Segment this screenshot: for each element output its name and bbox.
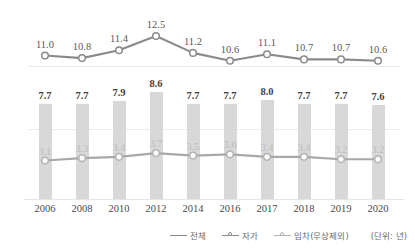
line-marker-icon [222, 231, 239, 240]
data-point-marker [79, 55, 86, 62]
total-value-label: 12.5 [136, 19, 176, 30]
total-value-label: 11.1 [247, 37, 287, 48]
legend-item-total[interactable]: 전체 [170, 229, 206, 241]
bar-value-label: 7.6 [358, 91, 398, 102]
x-tick-label: 2006 [25, 203, 65, 214]
bar-value-label: 7.7 [62, 90, 102, 101]
rent-value-label: 3.2 [358, 144, 398, 155]
data-point-marker [42, 52, 49, 59]
bar-value-label: 7.7 [321, 90, 361, 101]
bar-value-label: 8.6 [136, 78, 176, 89]
bar-value-label: 8.0 [247, 86, 287, 97]
rent-value-label: 3.4 [99, 142, 139, 153]
data-point-marker [227, 57, 234, 64]
data-point-marker [301, 56, 308, 63]
total-value-label: 10.8 [62, 41, 102, 52]
rent-value-label: 3.1 [25, 146, 65, 157]
data-point-marker [153, 33, 160, 40]
rent-value-label: 3.7 [136, 138, 176, 149]
x-tick-label: 2010 [99, 203, 139, 214]
total-value-label: 10.6 [358, 44, 398, 55]
legend-item-owner[interactable]: 자가 [222, 229, 258, 241]
bar-value-label: 7.7 [25, 90, 65, 101]
rent-value-label: 3.2 [321, 144, 361, 155]
rent-value-label: 3.4 [247, 142, 287, 153]
total-value-label: 11.2 [173, 36, 213, 47]
unit-note: (단위: 년) [371, 229, 407, 241]
total-value-label: 10.7 [321, 42, 361, 53]
legend-label-owner: 자가 [242, 229, 258, 241]
bar-value-label: 7.7 [210, 90, 250, 101]
data-point-marker [116, 47, 123, 54]
x-tick-label: 2014 [173, 203, 213, 214]
data-point-marker [190, 50, 197, 57]
x-tick-label: 2017 [247, 203, 287, 214]
rent-value-label: 3.4 [284, 142, 324, 153]
combo-chart: 11.010.811.412.511.210.611.110.710.710.6… [0, 0, 415, 252]
x-tick-label: 2019 [321, 203, 361, 214]
total-value-label: 10.7 [284, 42, 324, 53]
legend-label-total: 전체 [190, 229, 206, 241]
x-tick-label: 2018 [284, 203, 324, 214]
legend-label-rent: 임차(무상제외) [294, 229, 349, 241]
data-point-marker [264, 51, 271, 58]
total-value-label: 11.4 [99, 33, 139, 44]
legend-item-rent[interactable]: 임차(무상제외) [274, 229, 349, 241]
bar-value-label: 7.7 [173, 90, 213, 101]
total-value-label: 11.0 [25, 39, 65, 50]
data-point-marker [338, 56, 345, 63]
rent-value-label: 3.6 [210, 139, 250, 150]
line-marker-faint-icon [274, 231, 291, 240]
x-tick-label: 2016 [210, 203, 250, 214]
bar-value-label: 7.9 [99, 87, 139, 98]
rent-value-label: 3.3 [62, 143, 102, 154]
x-tick-label: 2008 [62, 203, 102, 214]
line-icon [170, 231, 187, 240]
data-point-marker [375, 57, 382, 64]
total-value-label: 10.6 [210, 44, 250, 55]
x-tick-label: 2012 [136, 203, 176, 214]
chart-legend: 전체 자가 임차(무상제외) (단위: 년) [0, 225, 415, 245]
bar-value-label: 7.7 [284, 90, 324, 101]
x-tick-label: 2020 [358, 203, 398, 214]
rent-value-label: 3.5 [173, 141, 213, 152]
